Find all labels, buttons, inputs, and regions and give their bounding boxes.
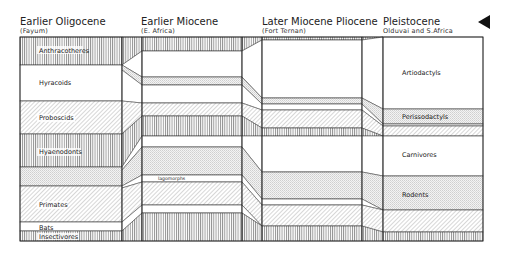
connector-3-4 <box>362 37 383 241</box>
label-proboscids: Proboscids <box>39 114 74 122</box>
connector-1-2 <box>122 37 142 241</box>
label-hyracoids: Hyracoids <box>39 79 72 87</box>
column-pleistocene <box>383 37 483 241</box>
label-anthracotheres: Anthracotheres <box>39 47 90 55</box>
label-bats: Bats <box>39 224 54 232</box>
label-hyaenodonts: Hyaenodonts <box>39 148 83 156</box>
label-primates: Primates <box>39 201 68 209</box>
label-insectivores: Insectivores <box>39 233 79 241</box>
fauna-composition-diagram: Anthracotheres Hyracoids Proboscids Hyae… <box>0 0 507 262</box>
label-perissodactyls: Perissodactyls <box>402 113 449 121</box>
column-earlier-miocene <box>142 37 242 241</box>
label-rodents: Rodents <box>402 191 429 199</box>
label-lagomorphs: lagomorphs <box>158 176 186 181</box>
label-carnivores: Carnivores <box>402 151 437 159</box>
label-artiodactyls: Artiodactyls <box>402 69 441 77</box>
connector-2-3 <box>242 37 262 241</box>
column-earlier-oligocene <box>20 37 122 241</box>
column-later-miocene-pliocene <box>262 37 362 241</box>
